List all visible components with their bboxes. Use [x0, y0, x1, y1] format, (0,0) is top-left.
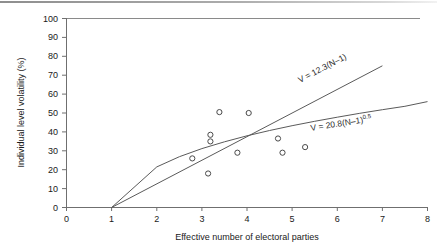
- x-tick-label-0: 0: [64, 214, 69, 224]
- y-tick-label-100: 100: [43, 14, 58, 24]
- x-tick-label-1: 1: [109, 214, 114, 224]
- y-axis-ticks: [62, 19, 66, 208]
- data-point: [303, 145, 308, 150]
- x-axis-tick-labels: 0 1 2 3 4 5 6 7 8: [64, 214, 430, 224]
- y-tick-label-90: 90: [48, 32, 58, 42]
- y-tick-label-10: 10: [48, 184, 58, 194]
- data-point: [208, 132, 213, 137]
- annotation-sqrt-model-text: V = 20.8(N–1)0.5: [310, 113, 373, 133]
- y-tick-label-80: 80: [48, 51, 58, 61]
- x-tick-label-3: 3: [199, 214, 204, 224]
- y-tick-label-20: 20: [48, 165, 58, 175]
- x-axis-title: Effective number of electoral parties: [175, 232, 319, 242]
- data-point: [275, 136, 280, 141]
- annotation-linear-model-text: V = 12.3(N–1): [296, 51, 348, 85]
- x-tick-label-6: 6: [335, 214, 340, 224]
- annotation-sqrt-model: V = 20.8(N–1)0.5: [310, 113, 373, 133]
- data-point: [280, 150, 285, 155]
- annotation-sqrt-exponent: 0.5: [362, 113, 372, 120]
- x-tick-label-7: 7: [380, 214, 385, 224]
- data-point: [208, 139, 213, 144]
- y-tick-label-0: 0: [53, 203, 58, 213]
- scatter-points: [190, 110, 308, 177]
- x-tick-label-4: 4: [244, 214, 249, 224]
- y-axis-title: Individual level volatility (%): [16, 57, 26, 167]
- y-tick-label-60: 60: [48, 89, 58, 99]
- y-tick-label-70: 70: [48, 70, 58, 80]
- x-tick-label-8: 8: [425, 214, 430, 224]
- data-point: [206, 171, 211, 176]
- x-tick-label-2: 2: [154, 214, 159, 224]
- data-point: [246, 110, 251, 115]
- y-tick-label-40: 40: [48, 127, 58, 137]
- square-root-model-line: [112, 102, 428, 208]
- model-lines: [112, 66, 428, 208]
- chart-canvas: 0 10 20 30 40 50 60 70 80 90 100 0 1: [0, 0, 437, 252]
- data-point: [217, 110, 222, 115]
- y-tick-label-50: 50: [48, 108, 58, 118]
- chart-figure: 0 10 20 30 40 50 60 70 80 90 100 0 1: [0, 0, 437, 252]
- annotation-linear-model: V = 12.3(N–1): [296, 51, 348, 85]
- y-axis-tick-labels: 0 10 20 30 40 50 60 70 80 90 100: [43, 14, 58, 213]
- data-point: [190, 156, 195, 161]
- linear-model-line: [112, 66, 383, 208]
- x-tick-label-5: 5: [290, 214, 295, 224]
- y-tick-label-30: 30: [48, 146, 58, 156]
- data-point: [235, 150, 240, 155]
